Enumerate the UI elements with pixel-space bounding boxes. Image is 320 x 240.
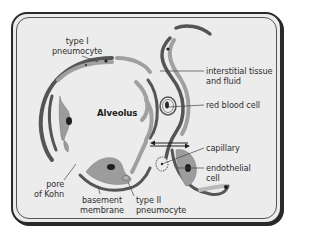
label-line: and fluid [206, 76, 273, 86]
label-line: type II [136, 195, 186, 205]
label-line: pneumocyte [136, 205, 186, 215]
label-red-blood-cell: red blood cell [206, 100, 260, 110]
label-basement-membrane: basement membrane [80, 195, 124, 215]
label-type2-pneumocyte: type II pneumocyte [136, 195, 186, 215]
label-line: basement [80, 195, 124, 205]
label-line: endothelial [206, 163, 251, 173]
label-capillary: capillary [206, 143, 240, 153]
label-line: type I [52, 36, 102, 46]
top-arc-wall [176, 26, 210, 34]
label-line: of Kohn [34, 189, 64, 199]
label-line: cell [206, 173, 251, 183]
label-line: Alveolus [97, 108, 137, 118]
type2-pneumocyte [123, 176, 130, 181]
label-pore-of-kohn: pore of Kohn [34, 179, 64, 199]
label-interstitial-tissue: interstitial tissue and fluid [206, 66, 273, 86]
label-line: capillary [206, 143, 240, 153]
label-line: pneumocyte [52, 46, 102, 56]
label-line: membrane [80, 205, 124, 215]
label-line: red blood cell [206, 100, 260, 110]
label-line: interstitial tissue [206, 66, 273, 76]
type1-nucleus [104, 59, 107, 62]
alveolar-wall-top-right [117, 58, 150, 72]
label-alveolus: Alveolus [97, 108, 137, 118]
label-line: pore [34, 179, 64, 189]
label-endothelial-cell: endothelial cell [206, 163, 251, 183]
label-type1-pneumocyte: type I pneumocyte [52, 36, 102, 56]
red-blood-cell [165, 102, 169, 109]
